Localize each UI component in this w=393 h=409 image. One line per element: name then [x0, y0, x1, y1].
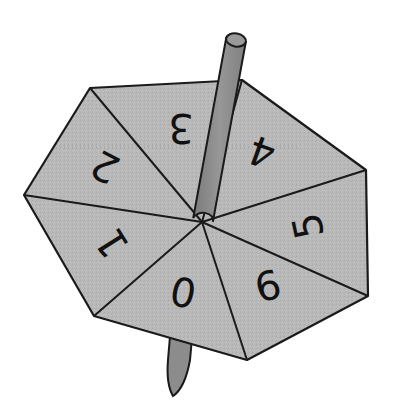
spinner-svg: 3456012 [0, 0, 393, 409]
spinner-stick-bottom [168, 336, 192, 396]
sector-label-3: 3 [168, 105, 193, 151]
spinner-diagram: Seven-sided spinner (teetotum) 3456012 [0, 0, 393, 409]
